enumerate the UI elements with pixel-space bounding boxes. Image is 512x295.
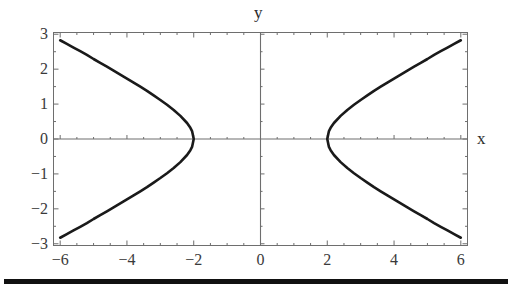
x-tick-label: 2 <box>307 252 347 268</box>
bottom-rule <box>4 279 508 284</box>
x-tick-label: 6 <box>441 252 481 268</box>
y-tick-label: −1 <box>12 166 48 182</box>
x-tick-label: −4 <box>107 252 147 268</box>
x-tick-label: 0 <box>241 252 281 268</box>
plot-canvas <box>0 0 512 295</box>
y-tick-label: −3 <box>12 236 48 252</box>
x-tick-label: −6 <box>40 252 80 268</box>
x-tick-label: −2 <box>174 252 214 268</box>
y-tick-label: 1 <box>12 96 48 112</box>
x-axis-label: x <box>477 130 486 147</box>
y-axis-label: y <box>254 4 263 21</box>
y-tick-label: −2 <box>12 201 48 217</box>
x-tick-label: 4 <box>374 252 414 268</box>
hyperbola-figure: y x −6−4−20246 −3−2−10123 <box>0 0 512 295</box>
y-tick-label: 2 <box>12 61 48 77</box>
y-tick-label: 3 <box>12 26 48 42</box>
y-tick-label: 0 <box>12 131 48 147</box>
